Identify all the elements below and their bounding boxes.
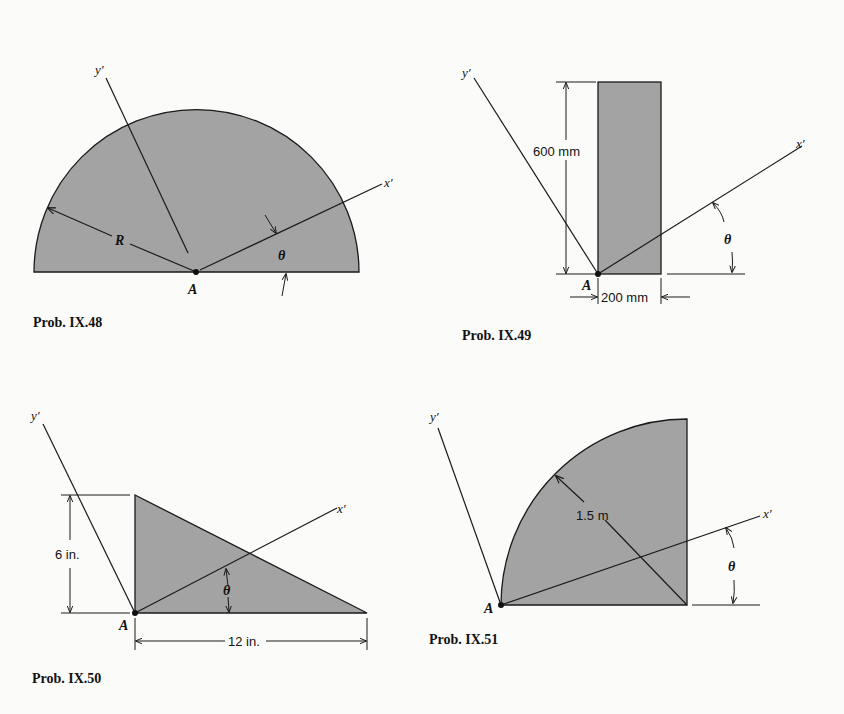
base-label: 12 in. <box>228 634 260 649</box>
angle-arrow-top <box>713 203 724 222</box>
angle-arrow-bottom <box>282 274 286 296</box>
problem-figures: y′ x′ R θ A Prob. IX.48 600 mm 200 mm y′… <box>0 0 844 714</box>
height-label: 6 in. <box>55 547 80 562</box>
point-a-label: A <box>118 618 128 633</box>
angle-arrow-bottom <box>732 252 733 272</box>
y-prime-label: y′ <box>460 65 471 80</box>
point-a-dot <box>595 271 601 277</box>
rectangle-shape <box>598 82 661 274</box>
angle-label: θ <box>724 232 732 247</box>
y-prime-label: y′ <box>428 409 439 424</box>
angle-arrow-top <box>726 528 734 548</box>
y-prime-label: y′ <box>93 62 104 77</box>
angle-label: θ <box>278 248 286 263</box>
x-prime-label: x′ <box>762 506 772 521</box>
point-a-dot <box>498 602 504 608</box>
figure-caption: Prob. IX.48 <box>33 315 102 330</box>
point-a-label: A <box>187 282 197 297</box>
point-a-label: A <box>483 601 493 616</box>
width-label: 200 mm <box>601 290 648 305</box>
angle-label: θ <box>223 583 231 598</box>
y-prime-axis <box>438 428 501 605</box>
point-a-dot <box>193 269 199 275</box>
x-prime-label: x′ <box>336 501 346 516</box>
point-a-label: A <box>581 278 591 293</box>
radius-label: 1.5 m <box>576 508 609 523</box>
figure-caption: Prob. IX.50 <box>32 671 101 686</box>
angle-label: θ <box>728 559 736 574</box>
figure-ix50: 6 in. 12 in. y′ x′ θ A Prob. IX.50 <box>29 408 367 686</box>
angle-arrow-bottom <box>733 580 734 603</box>
figure-caption: Prob. IX.51 <box>429 632 498 647</box>
height-label: 600 mm <box>533 144 580 159</box>
y-prime-axis <box>43 424 135 613</box>
semicircle-shape <box>34 110 359 272</box>
x-prime-label: x′ <box>795 136 805 151</box>
figure-caption: Prob. IX.49 <box>462 328 531 343</box>
y-prime-axis <box>474 78 598 274</box>
point-a-dot <box>132 610 138 616</box>
y-prime-label: y′ <box>29 408 40 423</box>
figure-ix51: 1.5 m y′ x′ θ A Prob. IX.51 <box>428 409 772 647</box>
radius-label: R <box>114 233 124 248</box>
figure-ix48: y′ x′ R θ A Prob. IX.48 <box>33 62 393 330</box>
figure-ix49: 600 mm 200 mm y′ x′ θ A Prob. IX.49 <box>460 65 805 343</box>
x-prime-label: x′ <box>383 175 393 190</box>
